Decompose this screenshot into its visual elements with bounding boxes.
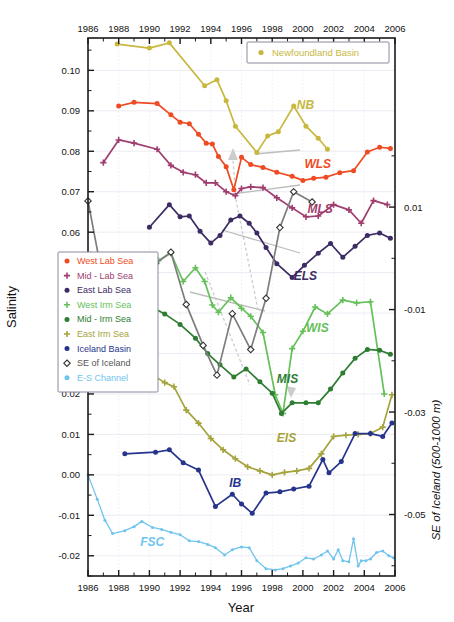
legend-marker-icon	[65, 317, 70, 322]
data-point-wls	[196, 132, 201, 137]
newfoundland-basin-legend[interactable]: Newfoundland Basin	[247, 42, 389, 63]
data-point-fsc	[265, 567, 268, 570]
legend-item-label: Iceland Basin	[77, 344, 131, 354]
data-point-wls	[323, 175, 328, 180]
data-point-nb	[254, 150, 259, 155]
x-tick-label: 1990	[139, 582, 160, 593]
y-tick-label: -0.02	[58, 550, 80, 561]
data-point-mis	[244, 366, 249, 371]
series-legend[interactable]: West Lab SeaMid - Lab SeaEast Lab SeaWes…	[58, 252, 158, 392]
data-point-fsc	[96, 498, 99, 501]
data-point-fsc	[188, 539, 191, 542]
data-point-wls	[365, 150, 370, 155]
data-point-els	[316, 251, 321, 256]
data-point-ib	[213, 504, 218, 509]
nb-legend-label: Newfoundland Basin	[272, 47, 359, 58]
data-point-mis	[377, 348, 382, 353]
arrowhead-down	[286, 386, 296, 398]
data-point-mls	[131, 140, 137, 146]
data-point-fsc	[312, 558, 315, 561]
data-point-fsc	[140, 520, 143, 523]
data-point-fsc	[337, 548, 340, 551]
y-tick-label: 0.00	[62, 469, 81, 480]
data-point-fsc	[360, 559, 363, 562]
data-point-wls	[260, 165, 265, 170]
legend-marker-icon	[65, 259, 70, 264]
series-tag-mls: MLS	[308, 202, 333, 216]
data-point-nb	[276, 129, 281, 134]
x-tick-label-top: 1986	[77, 23, 98, 34]
data-point-mis	[353, 356, 358, 361]
data-point-sei	[183, 301, 189, 307]
x-tick-label-top: 1996	[231, 23, 252, 34]
legend-item-label: Mid - Lab Sea	[77, 271, 133, 281]
data-point-fsc	[341, 559, 344, 562]
data-point-ib	[291, 487, 296, 492]
data-point-wls	[300, 178, 305, 183]
data-point-eis	[343, 432, 349, 438]
mls-els-connector	[222, 230, 300, 253]
legend-marker-icon	[65, 288, 70, 293]
data-point-els	[254, 230, 259, 235]
data-point-ib	[353, 431, 358, 436]
series-mis	[147, 303, 393, 416]
x-tick-label-top: 1988	[108, 23, 129, 34]
legend-marker-icon	[65, 346, 70, 351]
data-point-fsc	[357, 564, 360, 567]
data-point-nb	[233, 124, 238, 129]
y-tick-label-right: -0.03	[404, 407, 426, 418]
data-point-ib	[122, 451, 127, 456]
data-point-ib	[326, 470, 331, 475]
data-point-els	[218, 233, 223, 238]
data-point-wls	[377, 145, 382, 150]
nb-wls-connector	[255, 150, 300, 154]
data-point-fsc	[133, 525, 136, 528]
data-point-mis	[193, 336, 198, 341]
data-point-fsc	[223, 553, 226, 556]
data-point-fsc	[197, 540, 200, 543]
y-axis-title: Salinity	[4, 286, 19, 328]
data-point-els	[187, 213, 192, 218]
data-point-fsc	[387, 554, 390, 557]
data-point-eis	[389, 392, 395, 398]
data-point-nb	[303, 124, 308, 129]
data-point-wis	[381, 391, 387, 397]
data-point-els	[167, 202, 172, 207]
x-tick-label-top: 1994	[200, 23, 221, 34]
data-point-nb	[147, 46, 152, 51]
data-point-mis	[279, 411, 284, 416]
legend-item-label: West Lab Sea	[77, 256, 133, 266]
data-point-els	[302, 263, 307, 268]
legend-item-label: East Irm Sea	[77, 329, 129, 339]
data-point-wls	[132, 100, 137, 105]
x-tick-label-top: 2002	[323, 23, 344, 34]
data-point-ib	[167, 447, 172, 452]
y-tick-label: 0.06	[62, 227, 81, 238]
x-tick-label: 2000	[292, 582, 313, 593]
data-point-mis	[365, 347, 370, 352]
data-point-wls	[388, 146, 393, 151]
data-point-els	[237, 213, 242, 218]
data-point-eis	[171, 384, 177, 390]
data-point-ib	[181, 460, 186, 465]
data-point-fsc	[281, 567, 284, 570]
nb-legend-marker-icon	[258, 50, 263, 55]
data-point-wls	[248, 162, 253, 167]
data-point-fsc	[103, 519, 106, 522]
x-axis-tick-labels-top: 1986198819901992199419961998200020022004…	[77, 23, 405, 34]
data-point-mis	[231, 374, 236, 379]
y-tick-label-right: -0.05	[404, 509, 426, 520]
data-point-fsc	[297, 562, 300, 565]
x-tick-label-top: 1998	[262, 23, 283, 34]
data-point-els	[247, 221, 252, 226]
data-point-wls	[337, 170, 342, 175]
data-point-fsc	[151, 526, 154, 529]
data-point-wls	[224, 164, 229, 169]
data-point-mis	[270, 391, 275, 396]
series-line-wis	[149, 253, 384, 413]
x-tick-label: 1996	[231, 582, 252, 593]
series-tag-wis: WIS	[306, 321, 329, 335]
data-point-fsc	[255, 559, 258, 562]
series-tag-wls: WLS	[304, 157, 331, 171]
data-point-fsc	[381, 549, 384, 552]
